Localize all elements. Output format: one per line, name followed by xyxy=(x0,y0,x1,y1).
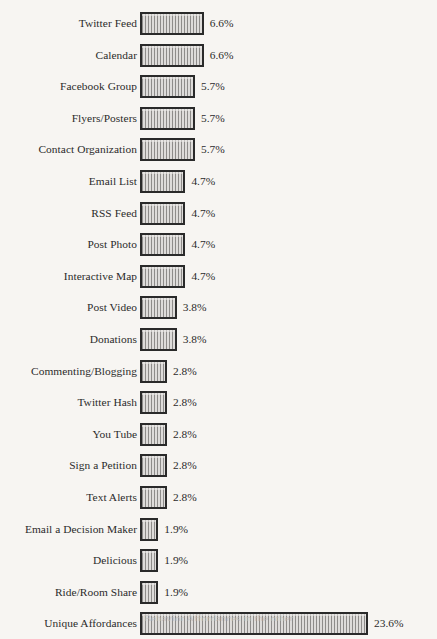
bar xyxy=(140,391,167,414)
bar-track xyxy=(140,202,185,225)
bar-track xyxy=(140,170,185,193)
category-label: Sign a Petition xyxy=(0,459,137,472)
bar-row: RSS Feed4.7% xyxy=(0,198,437,230)
bar-track xyxy=(140,44,204,67)
bar-row: Post Photo4.7% xyxy=(0,229,437,261)
category-label: Post Photo xyxy=(0,238,137,251)
category-label: Donations xyxy=(0,333,137,346)
bar-track xyxy=(140,233,185,256)
bar-track xyxy=(140,265,185,288)
bar-row: You Tube2.8% xyxy=(0,419,437,451)
bar-row: Text Alerts2.8% xyxy=(0,482,437,514)
bar-track xyxy=(140,296,177,319)
bar xyxy=(140,328,177,351)
bar-track xyxy=(140,423,167,446)
bar-value-label: 6.6% xyxy=(210,17,234,30)
bar xyxy=(140,107,195,130)
bar-value-label: 2.8% xyxy=(173,396,197,409)
category-label: Twitter Hash xyxy=(0,396,137,409)
bar-value-label: 5.7% xyxy=(201,143,225,156)
bar xyxy=(140,170,185,193)
bar-track xyxy=(140,581,158,604)
bar xyxy=(140,423,167,446)
category-label: Twitter Feed xyxy=(0,17,137,30)
bar-value-label: 2.8% xyxy=(173,428,197,441)
bar-value-label: 4.7% xyxy=(191,270,215,283)
bar xyxy=(140,360,167,383)
bar-value-label: 6.6% xyxy=(210,49,234,62)
bar xyxy=(140,233,185,256)
category-label: Calendar xyxy=(0,49,137,62)
bar-track xyxy=(140,518,158,541)
bar-row: Facebook Group5.7% xyxy=(0,71,437,103)
bar-row: Email List4.7% xyxy=(0,166,437,198)
bar-value-label: 4.7% xyxy=(191,175,215,188)
bar xyxy=(140,44,204,67)
bar-track xyxy=(140,360,167,383)
bar-row: Donations3.8% xyxy=(0,324,437,356)
category-label: Interactive Map xyxy=(0,270,137,283)
bar xyxy=(140,296,177,319)
bar-value-label: 5.7% xyxy=(201,112,225,125)
bar xyxy=(140,518,158,541)
bar-track xyxy=(140,75,195,98)
category-label: Contact Organization xyxy=(0,143,137,156)
cropped-caption-text: Behavior Affordances in the other xyxy=(0,612,437,621)
bar-row: Contact Organization5.7% xyxy=(0,134,437,166)
bar xyxy=(140,454,167,477)
bar-value-label: 1.9% xyxy=(164,523,188,536)
category-label: Delicious xyxy=(0,554,137,567)
bar xyxy=(140,202,185,225)
bar-track xyxy=(140,549,158,572)
bar-track xyxy=(140,328,177,351)
category-label: Commenting/Blogging xyxy=(0,365,137,378)
bar-row: Interactive Map4.7% xyxy=(0,261,437,293)
category-label: Text Alerts xyxy=(0,491,137,504)
bar-row: Twitter Feed6.6% xyxy=(0,8,437,40)
bar-row: Ride/Room Share1.9% xyxy=(0,577,437,609)
bar-row: Sign a Petition2.8% xyxy=(0,450,437,482)
category-label: Facebook Group xyxy=(0,80,137,93)
bar-row: Calendar6.6% xyxy=(0,40,437,72)
bar-value-label: 3.8% xyxy=(183,301,207,314)
bar-row: Twitter Hash2.8% xyxy=(0,387,437,419)
bar-track xyxy=(140,391,167,414)
bar xyxy=(140,581,158,604)
bar-value-label: 2.8% xyxy=(173,491,197,504)
bar-track xyxy=(140,138,195,161)
bar-value-label: 3.8% xyxy=(183,333,207,346)
bar-value-label: 2.8% xyxy=(173,459,197,472)
bar-row: Delicious1.9% xyxy=(0,545,437,577)
bar-track xyxy=(140,486,167,509)
bar-value-label: 5.7% xyxy=(201,80,225,93)
bar-row: Commenting/Blogging2.8% xyxy=(0,356,437,388)
category-label: Email a Decision Maker xyxy=(0,523,137,536)
bar-row: Flyers/Posters5.7% xyxy=(0,103,437,135)
bar-value-label: 2.8% xyxy=(173,365,197,378)
bar-value-label: 1.9% xyxy=(164,586,188,599)
bar xyxy=(140,12,204,35)
category-label: RSS Feed xyxy=(0,207,137,220)
bar-track xyxy=(140,12,204,35)
bar xyxy=(140,75,195,98)
bar-value-label: 4.7% xyxy=(191,238,215,251)
bar-track xyxy=(140,454,167,477)
bar xyxy=(140,138,195,161)
category-label: Ride/Room Share xyxy=(0,586,137,599)
bar-row: Post Video3.8% xyxy=(0,292,437,324)
bar xyxy=(140,486,167,509)
category-label: Post Video xyxy=(0,301,137,314)
bar xyxy=(140,265,185,288)
bar-value-label: 1.9% xyxy=(164,554,188,567)
bar-row: Email a Decision Maker1.9% xyxy=(0,514,437,546)
bar-track xyxy=(140,107,195,130)
category-label: Flyers/Posters xyxy=(0,112,137,125)
category-label: You Tube xyxy=(0,428,137,441)
bar-value-label: 4.7% xyxy=(191,207,215,220)
bar xyxy=(140,549,158,572)
category-label: Email List xyxy=(0,175,137,188)
